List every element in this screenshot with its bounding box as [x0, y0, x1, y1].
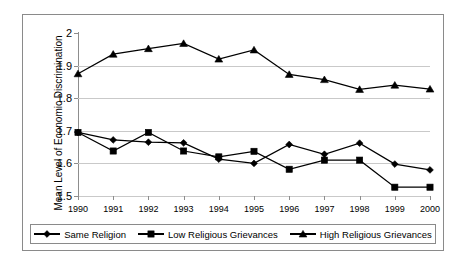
y-axis-tick-label: 1.5 [57, 191, 72, 202]
y-axis-tick-label: 2 [66, 28, 72, 39]
diamond-marker-icon [34, 229, 60, 239]
data-point-diamond-marker [391, 161, 398, 168]
x-axis-tick [360, 196, 361, 200]
data-point-triangle-marker [250, 46, 258, 53]
legend-item-same-religion[interactable]: Same Religion [34, 229, 126, 240]
data-point-square-marker [110, 148, 116, 154]
data-point-diamond-marker [286, 141, 293, 148]
x-axis-tick-label: 1996 [279, 204, 299, 214]
x-axis-tick-label: 2000 [420, 204, 440, 214]
data-point-diamond-marker [145, 139, 152, 146]
data-point-diamond-marker [251, 160, 258, 167]
square-marker-icon-glyph [146, 229, 156, 239]
x-axis-tick [113, 196, 114, 200]
x-axis-tick-label: 1991 [103, 204, 123, 214]
y-axis-tick-label: 1.9 [57, 60, 72, 71]
x-axis-tick [254, 196, 255, 200]
data-point-square-marker [181, 148, 187, 154]
data-point-square-marker [392, 184, 398, 190]
y-axis-tick-label: 1.6 [57, 158, 72, 169]
diamond-marker-icon-glyph [42, 229, 52, 239]
data-point-square-marker [216, 154, 222, 160]
legend-label: High Religious Grievances [320, 229, 432, 240]
data-point-square-marker [145, 129, 151, 135]
triangle-marker-icon-glyph [298, 229, 308, 239]
series-layer [78, 33, 430, 196]
x-axis-tick-label: 1999 [385, 204, 405, 214]
series-high-religious-grievances [74, 40, 434, 93]
data-point-diamond-marker [110, 137, 117, 144]
x-axis-tick [148, 196, 149, 200]
y-axis-tick-label: 1.7 [57, 125, 72, 136]
data-point-triangle-marker [180, 40, 188, 47]
x-axis-tick [430, 196, 431, 200]
x-axis-tick-label: 1994 [209, 204, 229, 214]
x-axis-tick [395, 196, 396, 200]
legend-label: Low Religious Grievances [168, 229, 278, 240]
x-axis-labels-group: 1990199119921993199419951996199719981999… [78, 196, 431, 216]
data-point-square-marker [357, 157, 363, 163]
x-axis-tick-label: 1995 [244, 204, 264, 214]
x-axis-tick [219, 196, 220, 200]
legend-item-low-religious-grievances[interactable]: Low Religious Grievances [138, 229, 278, 240]
x-axis-tick-label: 1993 [174, 204, 194, 214]
x-axis-tick-label: 1998 [350, 204, 370, 214]
x-axis-tick-label: 1990 [68, 204, 88, 214]
data-point-square-marker [148, 231, 154, 237]
triangle-marker-icon [290, 229, 316, 239]
data-point-square-marker [286, 166, 292, 172]
chart-figure: Mean Level of Economic Discrimination 1.… [0, 0, 466, 265]
data-point-diamond-marker [356, 140, 363, 147]
data-point-square-marker [75, 129, 81, 135]
data-point-square-marker [321, 157, 327, 163]
x-axis-tick [184, 196, 185, 200]
data-point-triangle-marker [299, 230, 307, 237]
data-point-diamond-marker [180, 139, 187, 146]
x-axis-tick [289, 196, 290, 200]
x-axis-tick-label: 1997 [314, 204, 334, 214]
x-axis-tick-label: 1992 [138, 204, 158, 214]
x-axis-tick [78, 196, 79, 200]
data-point-diamond-marker [321, 151, 328, 158]
data-point-square-marker [251, 148, 257, 154]
legend-item-high-religious-grievances[interactable]: High Religious Grievances [290, 229, 432, 240]
square-marker-icon [138, 229, 164, 239]
plot-area: 1.51.61.71.81.92 [78, 33, 430, 196]
x-axis-tick [324, 196, 325, 200]
y-axis-tick-label: 1.8 [57, 93, 72, 104]
chart-legend: Same ReligionLow Religious GrievancesHig… [30, 224, 436, 244]
data-point-square-marker [427, 184, 433, 190]
legend-label: Same Religion [64, 229, 126, 240]
data-point-diamond-marker [44, 231, 51, 238]
